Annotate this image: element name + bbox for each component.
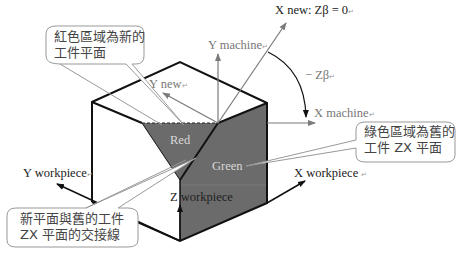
paragraph-mark-icon: ↵ [329, 73, 335, 81]
paragraph-mark-icon: ↵ [87, 171, 93, 179]
green-region-label: Green [212, 159, 243, 173]
paragraph-mark-icon: ↵ [369, 111, 375, 119]
paragraph-mark-icon: ↵ [361, 171, 367, 179]
x-workpiece-axis [267, 181, 305, 203]
x-machine-label: X machine↵ [314, 106, 375, 122]
callout-line: 綠色區域為舊的 [364, 124, 455, 140]
y-new-axis [163, 93, 218, 123]
y-workpiece-label: Y workpiece↵ [23, 166, 93, 182]
callout-line: ZX 平面的交接線 [20, 227, 124, 243]
y-new-label: Y new↵ [149, 77, 188, 93]
x-workpiece-text: X workpiece [294, 166, 358, 180]
callout-top-left-text: 紅色區域為新的 工件平面 [54, 29, 145, 61]
red-region-label: Red [170, 133, 190, 147]
x-new-text: X new: Zβ = 0 [275, 3, 348, 17]
callout-line: 工件 ZX 平面 [364, 140, 455, 156]
y-machine-text: Y machine [208, 38, 262, 52]
callout-line: 新平面與舊的工件 [20, 211, 124, 227]
paragraph-mark-icon: ↵ [182, 82, 188, 90]
x-machine-text: X machine [314, 106, 369, 120]
z-workpiece-label: Z workpiece [170, 190, 233, 204]
minus-zbeta-label: − Zβ↵ [305, 68, 335, 84]
y-new-text: Y new [149, 77, 182, 91]
callout-right-text: 綠色區域為舊的 工件 ZX 平面 [364, 124, 455, 156]
y-workpiece-text: Y workpiece [23, 166, 87, 180]
x-workpiece-label: X workpiece ↵ [294, 166, 367, 182]
callout-line: 紅色區域為新的 [54, 29, 145, 45]
paragraph-mark-icon: ↵ [348, 8, 354, 16]
coordinate-diagram: X new: Zβ = 0↵ Y machine↵ Y new↵ − Zβ↵ X… [0, 0, 462, 261]
minus-zbeta-text: − Zβ [305, 68, 329, 82]
paragraph-mark-icon: ↵ [262, 43, 268, 51]
callout-line: 工件平面 [54, 45, 145, 61]
x-new-label: X new: Zβ = 0↵ [275, 3, 354, 19]
y-machine-label: Y machine↵ [208, 38, 268, 54]
callout-bottom-left-text: 新平面與舊的工件 ZX 平面的交接線 [20, 211, 124, 243]
rotation-arc [268, 52, 306, 117]
